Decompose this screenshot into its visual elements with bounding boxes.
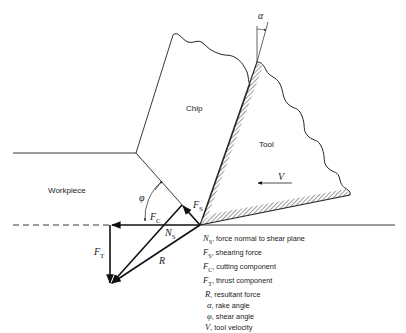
alpha-arc: [257, 29, 266, 30]
legend-item: NS, force normal to shear plane: [203, 233, 305, 247]
rake-extension-line: [257, 22, 268, 62]
fs-sub: S: [199, 205, 203, 213]
tool-clearance-face: [200, 195, 350, 225]
legend: NS, force normal to shear plane FS, shea…: [203, 233, 305, 333]
tool-rake-face: [200, 62, 257, 225]
workpiece-label: Workpiece: [48, 186, 86, 195]
velocity-symbol: V: [278, 171, 284, 182]
cutting-force-label: FC: [150, 211, 161, 225]
cutting-force-diagram: Chip Tool Workpiece α φ V R FS FC NS FT …: [0, 0, 406, 333]
resultant-symbol: R: [159, 255, 165, 266]
tool-rake-hatch: [200, 62, 263, 225]
legend-item: FC, cutting component: [203, 261, 305, 275]
ft-sub: T: [100, 252, 104, 260]
normal-force-label: NS: [165, 227, 176, 241]
legend-item: φ, shear angle: [203, 311, 305, 322]
chip-wavy-edge: [173, 34, 250, 84]
tool-label: Tool: [259, 140, 274, 149]
tool-wavy-edge: [257, 62, 350, 195]
ns-main: N: [165, 227, 172, 238]
tool-clearance-hatch: [200, 189, 350, 225]
legend-item: FT, thrust component: [203, 275, 305, 289]
legend-item: α, rake angle: [203, 300, 305, 311]
fc-sub: C: [156, 217, 161, 225]
legend-item: V, tool velocity: [203, 322, 305, 333]
shear-force-label: FS: [193, 199, 203, 213]
legend-item: FS, shearing force: [203, 247, 305, 261]
alpha-symbol: α: [258, 10, 263, 21]
chip-label: Chip: [186, 104, 202, 113]
chip-back-edge: [136, 35, 173, 153]
ns-sub: S: [172, 233, 176, 241]
phi-symbol: φ: [139, 192, 145, 203]
thrust-force-label: FT: [94, 246, 104, 260]
legend-item: R, resultant force: [203, 289, 305, 300]
shear-angle-arc-head: [155, 181, 162, 190]
